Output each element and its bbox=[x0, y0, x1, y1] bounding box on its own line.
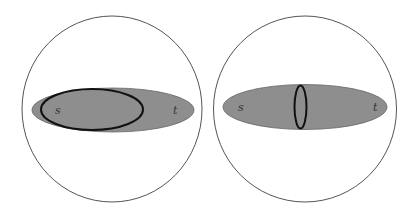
left-label-t: t bbox=[173, 104, 178, 117]
right-panel: s t bbox=[214, 16, 397, 202]
diagram-canvas: s t s t bbox=[0, 0, 413, 216]
left-label-s: s bbox=[55, 104, 61, 117]
right-label-s: s bbox=[238, 101, 244, 114]
right-label-t: t bbox=[373, 101, 378, 114]
left-panel: s t bbox=[22, 16, 202, 202]
